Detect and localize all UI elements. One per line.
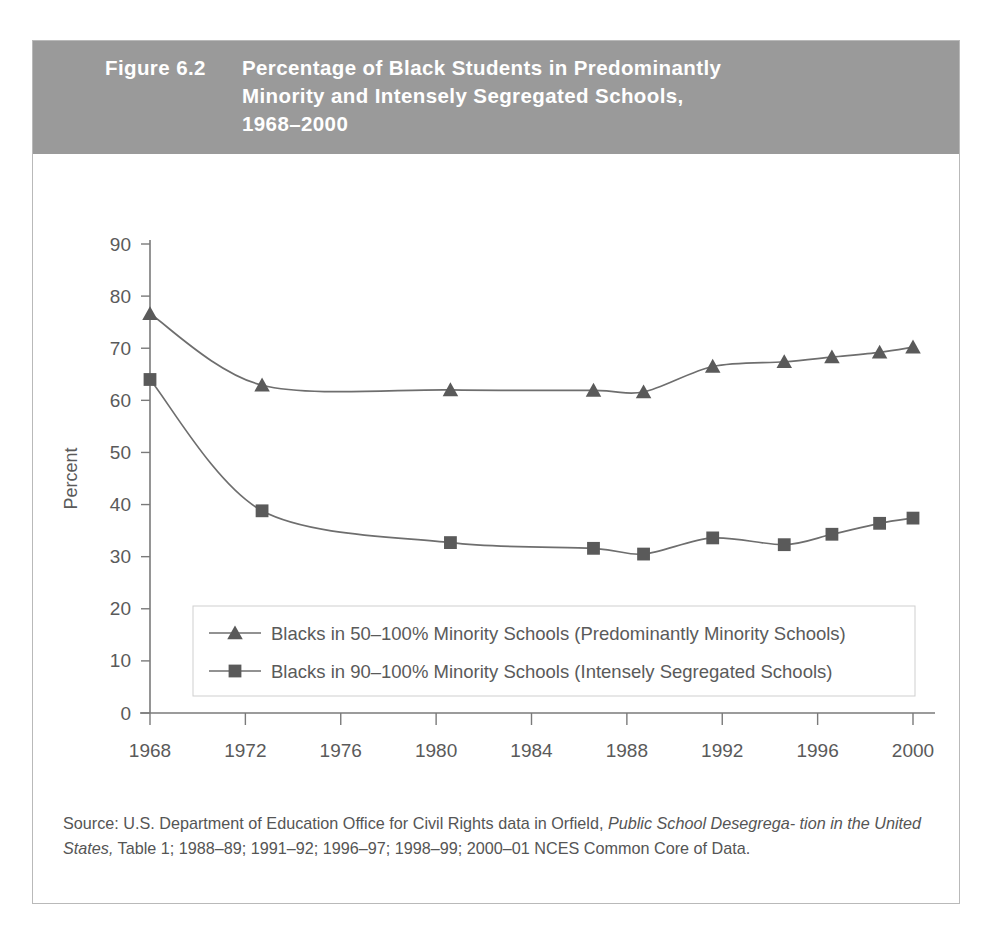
data-point-marker [142, 306, 158, 320]
x-tick-label: 2000 [892, 740, 934, 761]
data-point-marker [905, 340, 921, 354]
data-point-marker [873, 517, 886, 530]
legend-square-icon [229, 665, 242, 678]
data-point-marker [637, 548, 650, 561]
x-tick-label: 1992 [701, 740, 743, 761]
y-axis-tick-labels: 0102030405060708090 [110, 234, 131, 724]
data-point-marker [826, 528, 839, 541]
data-point-marker [706, 532, 719, 545]
chart-legend: Blacks in 50–100% Minority Schools (Pred… [193, 606, 915, 696]
data-point-marker [256, 504, 269, 517]
x-tick-label: 1988 [606, 740, 648, 761]
legend-background [193, 606, 915, 696]
chart-plot-area: 0102030405060708090 19681972197619801984… [33, 154, 959, 790]
y-tick-label: 80 [110, 286, 131, 307]
source-prefix: Source: U.S. Department of Education Off… [63, 814, 603, 832]
source-italic-1: Public School Desegrega- [608, 814, 795, 832]
y-tick-label: 60 [110, 390, 131, 411]
y-tick-label: 40 [110, 494, 131, 515]
data-point-marker [778, 538, 791, 551]
line-chart-svg: 0102030405060708090 19681972197619801984… [33, 154, 961, 790]
y-tick-label: 90 [110, 234, 131, 255]
y-axis-title: Percent [61, 447, 81, 509]
data-point-marker [587, 542, 600, 555]
legend-label: Blacks in 90–100% Minority Schools (Inte… [271, 661, 832, 682]
x-tick-label: 1980 [415, 740, 457, 761]
source-note: Source: U.S. Department of Education Off… [63, 811, 931, 861]
data-point-marker [907, 512, 920, 525]
y-tick-label: 50 [110, 442, 131, 463]
source-rest: Table 1; 1988–89; 1991–92; 1996–97; 1998… [118, 839, 751, 857]
data-point-marker [144, 373, 157, 386]
y-tick-label: 20 [110, 598, 131, 619]
y-tick-label: 30 [110, 546, 131, 567]
y-tick-label: 70 [110, 338, 131, 359]
x-tick-label: 1972 [224, 740, 266, 761]
figure-title-line-3: 1968–2000 [105, 110, 933, 138]
figure-title-text-2: Minority and Intensely Segregated School… [242, 84, 684, 107]
x-tick-label: 1968 [129, 740, 171, 761]
x-tick-label: 1984 [510, 740, 553, 761]
x-axis-tick-labels: 196819721976198019841988199219962000 [129, 740, 934, 761]
legend-item[interactable]: Blacks in 90–100% Minority Schools (Inte… [209, 661, 832, 682]
x-tick-label: 1976 [320, 740, 362, 761]
figure-number-label: Figure 6.2 [105, 54, 242, 82]
legend-label: Blacks in 50–100% Minority Schools (Pred… [271, 623, 846, 644]
figure-header-text: Figure 6.2Percentage of Black Students i… [105, 54, 933, 138]
figure-header-band: Figure 6.2Percentage of Black Students i… [33, 41, 959, 154]
series-line [150, 314, 913, 394]
x-tick-label: 1996 [796, 740, 838, 761]
figure-title-line-1: Figure 6.2Percentage of Black Students i… [105, 54, 933, 82]
figure-container: Figure 6.2Percentage of Black Students i… [32, 40, 960, 904]
figure-title-text-1: Percentage of Black Students in Predomin… [242, 54, 721, 82]
figure-title-text-3: 1968–2000 [242, 112, 348, 135]
legend-item[interactable]: Blacks in 50–100% Minority Schools (Pred… [209, 623, 846, 644]
x-axis-ticks [150, 713, 913, 725]
series-line [150, 379, 913, 554]
y-tick-label: 10 [110, 650, 131, 671]
y-tick-label: 0 [120, 703, 131, 724]
data-series-group [142, 306, 921, 560]
data-point-marker [444, 536, 457, 549]
figure-title-line-2: Minority and Intensely Segregated School… [105, 82, 933, 110]
